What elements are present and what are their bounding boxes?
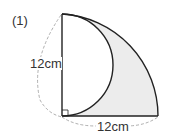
horizontal-length-label: 12cm — [97, 120, 129, 133]
vertical-length-label: 12cm — [30, 57, 62, 70]
geometry-figure — [0, 0, 174, 140]
